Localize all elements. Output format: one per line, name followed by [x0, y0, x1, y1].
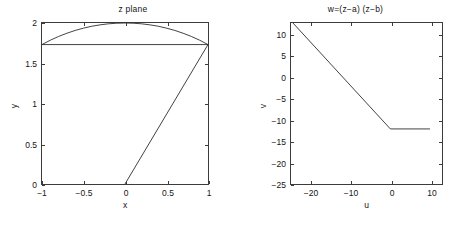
- right-xtick-top-1: [351, 23, 352, 26]
- right-xticklabel-2: 0: [390, 188, 395, 198]
- left-xtick-4: [209, 181, 210, 184]
- right-ytick-5: [291, 78, 294, 79]
- right-ytick-4: [291, 99, 294, 100]
- right-ytick-right-7: [439, 35, 442, 36]
- right-yticklabel-0: −25: [272, 180, 286, 190]
- right-ytick-right-1: [439, 164, 442, 165]
- right-plot-title: w=(z−a) (z−b): [230, 4, 461, 14]
- mapped-curve-path: [293, 23, 430, 129]
- panel-z-plane: z plane −1 −0.5 0 0.5 1: [0, 0, 230, 227]
- right-ytick-2: [291, 142, 294, 143]
- left-yticklabel-4: 2: [32, 18, 37, 28]
- right-xaxis-label: u: [364, 200, 369, 210]
- right-ytick-right-3: [439, 121, 442, 122]
- left-ytick-3: [42, 64, 45, 65]
- left-xticklabel-2: 0: [124, 188, 129, 198]
- left-yticklabel-3: 1.5: [25, 59, 37, 69]
- left-ytick-0: [42, 185, 45, 186]
- right-ytick-3: [291, 121, 294, 122]
- left-xtick-1: [84, 181, 85, 184]
- left-plot-title: z plane: [0, 4, 248, 14]
- left-ytick-2: [42, 104, 45, 105]
- right-xtick-top-0: [311, 23, 312, 26]
- right-yticklabel-6: 5: [281, 51, 286, 61]
- right-ytick-0: [291, 185, 294, 186]
- right-ytick-right-6: [439, 56, 442, 57]
- right-ytick-1: [291, 164, 294, 165]
- right-axes: −20 −10 0 10 −25 −20 −15 −10 −5: [290, 22, 443, 185]
- matlab-figure: z plane −1 −0.5 0 0.5 1: [0, 0, 461, 227]
- right-yticklabel-3: −10: [272, 116, 286, 126]
- left-xticklabel-3: 0.5: [162, 188, 174, 198]
- panel-w-plane: w=(z−a) (z−b) −20 −10 0 10: [230, 0, 461, 227]
- right-ytick-right-2: [439, 142, 442, 143]
- left-xtick-0: [42, 181, 43, 184]
- left-ytick-right-1: [205, 145, 208, 146]
- right-xtick-2: [392, 181, 393, 184]
- left-xticklabel-4: 1: [207, 188, 212, 198]
- left-yticklabel-0: 0: [32, 180, 37, 190]
- left-xticklabel-0: −1: [37, 188, 47, 198]
- right-yticklabel-7: 10: [277, 30, 286, 40]
- right-yticklabel-5: 0: [281, 73, 286, 83]
- right-ytick-right-5: [439, 78, 442, 79]
- left-xtick-top-2: [126, 23, 127, 26]
- left-xaxis-label: x: [123, 200, 127, 210]
- right-xtick-1: [351, 181, 352, 184]
- right-plot-canvas: [291, 23, 442, 184]
- right-xtick-0: [311, 181, 312, 184]
- left-plot-canvas: [42, 23, 208, 184]
- right-xtick-top-3: [432, 23, 433, 26]
- left-ytick-right-3: [205, 64, 208, 65]
- left-xticklabel-1: −0.5: [76, 188, 93, 198]
- right-xticklabel-3: 10: [427, 188, 436, 198]
- right-yaxis-label: v: [258, 104, 268, 108]
- left-xtick-2: [126, 181, 127, 184]
- right-xtick-top-2: [392, 23, 393, 26]
- right-ytick-right-4: [439, 99, 442, 100]
- left-yaxis-label: y: [9, 104, 19, 108]
- left-xtick-top-1: [84, 23, 85, 26]
- right-yticklabel-1: −20: [272, 159, 286, 169]
- right-ytick-6: [291, 56, 294, 57]
- left-yticklabel-2: 1: [32, 99, 37, 109]
- circle-arc-path: [42, 23, 208, 45]
- left-ytick-right-2: [205, 104, 208, 105]
- right-xticklabel-0: −20: [304, 188, 318, 198]
- left-xtick-3: [168, 181, 169, 184]
- right-xtick-3: [432, 181, 433, 184]
- left-yticklabel-1: 0.5: [25, 140, 37, 150]
- right-xticklabel-1: −10: [344, 188, 358, 198]
- right-yticklabel-2: −15: [272, 137, 286, 147]
- right-ytick-7: [291, 35, 294, 36]
- left-xtick-top-3: [168, 23, 169, 26]
- left-axes: −1 −0.5 0 0.5 1 0 0.5 1 1.5 2 x y: [41, 22, 209, 185]
- right-yticklabel-4: −5: [276, 94, 286, 104]
- left-ytick-1: [42, 145, 45, 146]
- radius-path: [125, 45, 208, 184]
- left-ytick-4: [42, 23, 45, 24]
